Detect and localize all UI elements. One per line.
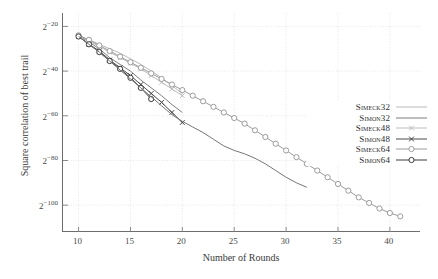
x-axis-title: Number of Rounds [62, 252, 420, 263]
legend-item[interactable]: Simon64 [308, 155, 428, 166]
y-tick-label: 2−100 [39, 199, 58, 211]
x-tick-label: 35 [332, 236, 341, 246]
legend-item-label: Simeck32 [356, 102, 390, 112]
x-tick-label: 40 [384, 236, 393, 246]
legend-item-label: Simeck64 [356, 144, 390, 154]
y-tick-label: 2−80 [43, 154, 58, 166]
x-tick-label: 15 [125, 236, 134, 246]
legend-item[interactable]: Simeck48 [308, 123, 428, 134]
x-tick-label: 20 [177, 236, 186, 246]
legend-item-label: Simon64 [359, 155, 390, 165]
x-tick-label: 10 [73, 236, 82, 246]
legend-item[interactable]: Simeck64 [308, 144, 428, 155]
legend-item-label: Simon48 [359, 134, 390, 144]
legend-item-label: Simeck48 [356, 123, 390, 133]
y-axis-title: Square correlation of best trail [19, 6, 30, 226]
legend-line-sample [395, 155, 428, 165]
legend-line-sample [395, 102, 428, 112]
y-tick-label: 2−40 [43, 65, 58, 77]
x-axis-tick-labels: 10152025303540 [62, 236, 420, 250]
legend-item[interactable]: Simon32 [308, 113, 428, 124]
legend-line-sample [395, 144, 428, 154]
legend-line-sample [395, 113, 428, 123]
x-tick-label: 25 [229, 236, 238, 246]
y-tick-label: 2−60 [43, 110, 58, 122]
chart-legend: Simeck32Simon32Simeck48Simon48Simeck64Si… [306, 101, 430, 166]
legend-line-sample [395, 123, 428, 133]
legend-item[interactable]: Simeck32 [308, 102, 428, 113]
x-tick-label: 30 [281, 236, 290, 246]
series-simeck64-upper [79, 36, 307, 187]
chart-figure: 2−202−402−602−802−100 10152025303540 Num… [0, 0, 438, 279]
y-tick-label: 2−20 [43, 20, 58, 32]
legend-item-label: Simon32 [359, 113, 390, 123]
legend-line-sample [395, 134, 428, 144]
legend-item[interactable]: Simon48 [308, 134, 428, 145]
